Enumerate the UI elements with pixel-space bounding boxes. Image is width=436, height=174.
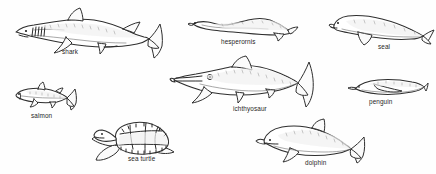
specimen-ichthyosaur [170,56,316,108]
label-shark: shark [62,49,78,55]
ichthyosaur-illustration [170,56,316,108]
penguin-eye [358,86,360,88]
salmon-eye [18,93,20,95]
label-seal: seal [378,44,390,50]
specimen-dolphin [256,118,366,164]
turtle-head [94,130,116,141]
label-hesperornis: hesperornis [221,39,256,45]
shark-eye [25,30,27,32]
label-ichthyosaur: ichthyosaur [233,106,267,112]
seal-eye [337,22,339,24]
label-dolphin: dolphin [305,160,326,166]
label-sea-turtle: sea turtle [128,156,155,162]
label-penguin: penguin [369,99,392,105]
turtle-rear-flipper-left [96,145,119,160]
hesperornis-eye [194,22,196,24]
specimen-salmon [12,82,78,112]
aquatic-body-forms-figure: shark hesperornis seal [0,0,436,174]
turtle-eye [101,133,103,135]
salmon-illustration [12,82,78,112]
shark-illustration [10,6,170,56]
specimen-shark [10,6,170,56]
specimen-penguin [348,76,428,100]
dolphin-illustration [256,118,366,164]
label-salmon: salmon [31,113,52,119]
dolphin-eye [269,139,271,141]
penguin-illustration [348,76,428,100]
